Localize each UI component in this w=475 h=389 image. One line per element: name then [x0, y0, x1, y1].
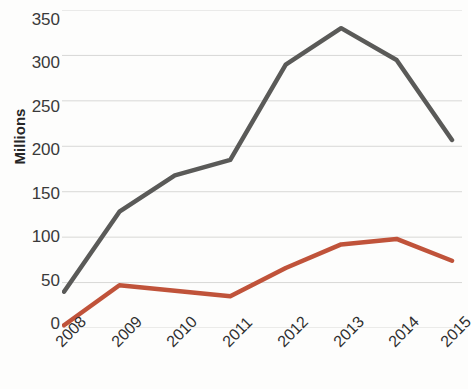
x-tick-label: 2013 [330, 313, 368, 351]
x-tick-label: 2014 [385, 313, 423, 351]
x-tick-label: 2012 [274, 313, 312, 351]
x-tick-label: 2009 [108, 313, 146, 351]
x-tick-label: 2008 [52, 313, 90, 351]
x-tick-label: 2010 [163, 313, 201, 351]
x-tick-label: 2011 [219, 314, 256, 351]
x-tick-label: 2015 [437, 313, 475, 351]
